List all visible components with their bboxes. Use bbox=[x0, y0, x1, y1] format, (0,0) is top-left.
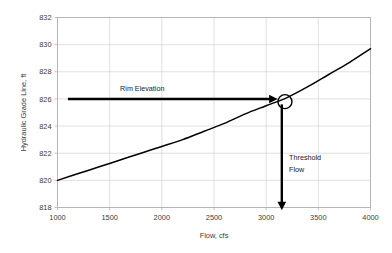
threshold-flow-label-line2: Flow bbox=[289, 165, 305, 174]
chart-container: 818820822824826828830832 100015002000250… bbox=[0, 0, 392, 253]
rim-elevation-label: Rim Elevation bbox=[120, 84, 164, 93]
y-tick-label: 822 bbox=[39, 149, 51, 158]
x-tick-label: 2000 bbox=[154, 213, 170, 222]
threshold-flow-label-line1: Threshold bbox=[289, 153, 321, 162]
x-tick-label: 1500 bbox=[101, 213, 117, 222]
y-tick-label: 828 bbox=[39, 67, 51, 76]
x-tick-label: 1000 bbox=[49, 213, 65, 222]
y-tick-label: 824 bbox=[39, 122, 51, 131]
y-axis-title: Hydraulic Grade Line, ft bbox=[19, 74, 28, 152]
y-tick-label: 832 bbox=[39, 13, 51, 22]
y-tick-label: 818 bbox=[39, 203, 51, 212]
hydraulic-grade-line-chart: 818820822824826828830832 100015002000250… bbox=[0, 0, 392, 253]
x-tick-label: 3000 bbox=[258, 213, 274, 222]
y-tick-label: 826 bbox=[39, 95, 51, 104]
y-tick-label: 820 bbox=[39, 176, 51, 185]
x-tick-label: 4000 bbox=[362, 213, 378, 222]
x-tick-label: 3500 bbox=[310, 213, 326, 222]
y-tick-label: 830 bbox=[39, 40, 51, 49]
x-axis-title: Flow, cfs bbox=[200, 231, 229, 240]
x-tick-label: 2500 bbox=[206, 213, 222, 222]
